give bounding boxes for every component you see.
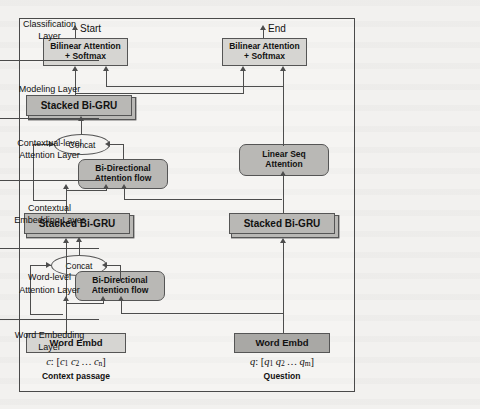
line-bus-linearseq-to-bilinear-start xyxy=(106,86,283,87)
arrowhead-bilinear-end-right xyxy=(280,66,286,71)
arrowhead-bilinear-start-right xyxy=(103,66,109,71)
node-word-embd-question[interactable]: Word Embd xyxy=(234,333,330,353)
layer-label-line2: Layer xyxy=(38,30,61,42)
arrowhead-bidaf-upper-right xyxy=(121,184,127,189)
line-question-to-bidaf-upper-bus xyxy=(124,199,282,200)
layer-label-line1: Classification xyxy=(23,18,76,30)
layer-label-line1: Contextual-level xyxy=(17,137,82,149)
line-bidaf-upper-to-concat-v xyxy=(123,145,124,159)
node-label: Word Embd xyxy=(255,338,308,349)
layer-label-line1: Word-level xyxy=(28,271,71,283)
arrowhead-bidaf-lower-left xyxy=(100,296,106,301)
line-linearseq-to-bilinear-end xyxy=(283,71,284,146)
arrowhead-linearseq-input xyxy=(280,171,286,176)
line-bidaf-upper-to-concat-h xyxy=(110,144,124,145)
line-bidaf-upper-left-stub xyxy=(106,189,107,191)
node-label-line2: + Softmax xyxy=(244,52,285,62)
line-bilinear-end-left-stub xyxy=(243,71,244,93)
layer-label-line1: Contextual xyxy=(28,202,71,214)
input-context-caption: Context passage xyxy=(26,371,126,381)
arrowhead-end-output xyxy=(260,25,266,30)
node-label-line2: Attention xyxy=(265,160,302,170)
layer-label-line2: Attention Layer xyxy=(19,149,80,161)
line-bilinear-start-right-stub xyxy=(106,71,107,86)
node-label-line2: Attention flow xyxy=(92,286,149,296)
layer-row-contextual-embedding: Contextual Embedding Layer xyxy=(0,180,99,248)
node-bilinear-attention-softmax-end[interactable]: Bilinear Attention + Softmax xyxy=(222,38,307,66)
layer-row-modeling: Modeling Layer xyxy=(0,60,99,118)
arrowhead-concat-upper-right xyxy=(105,141,110,147)
layer-row-classification: Classification Layer xyxy=(0,0,99,60)
line-bidaf-lower-to-concat-v xyxy=(120,266,121,281)
layer-row-word-embedding: Word Embedding Layer xyxy=(0,319,99,363)
line-question-to-bidaf-lower-bus xyxy=(121,313,283,314)
node-label-line2: Attention flow xyxy=(95,174,152,184)
arrowhead-bilinear-end-left xyxy=(240,66,246,71)
layer-label-line1: Word Embedding xyxy=(15,329,84,341)
arrowhead-bidaf-lower-right xyxy=(118,296,124,301)
diagram-canvas: Start End Bilinear Attention + Softmax B… xyxy=(0,0,480,409)
line-bidaf-lower-to-concat-h xyxy=(107,265,121,266)
input-question-sequence: q: [q1 q2 … qm] xyxy=(234,356,330,368)
line-bus-modeling-to-bilinear-end xyxy=(75,93,244,94)
layer-label-line2: Attention Layer xyxy=(19,284,80,296)
layer-row-contextual-level-attention: Contextual-level Attention Layer xyxy=(0,118,99,180)
layer-label-line2: Embedding Layer xyxy=(14,214,85,226)
layer-label-line1: Modeling Layer xyxy=(19,83,81,95)
arrowhead-concat-lower-right xyxy=(102,262,107,268)
node-label: Stacked Bi-GRU xyxy=(244,218,321,230)
line-wordembd-question-to-bigru xyxy=(283,243,284,333)
input-question-caption: Question xyxy=(234,371,330,381)
node-stacked-bigru-question[interactable]: Stacked Bi-GRU xyxy=(229,213,335,234)
arrowhead-question-bigru-input xyxy=(280,238,286,243)
layer-row-word-level-attention: Word-level Attention Layer xyxy=(0,248,99,319)
line-question-bigru-to-linearseq xyxy=(283,176,284,213)
line-bidaf-lower-left-stub xyxy=(103,301,104,304)
output-label-end: End xyxy=(268,23,286,34)
layer-legend-panel: Classification Layer Modeling Layer Cont… xyxy=(0,0,99,363)
layer-label-line2: Layer xyxy=(38,341,61,353)
